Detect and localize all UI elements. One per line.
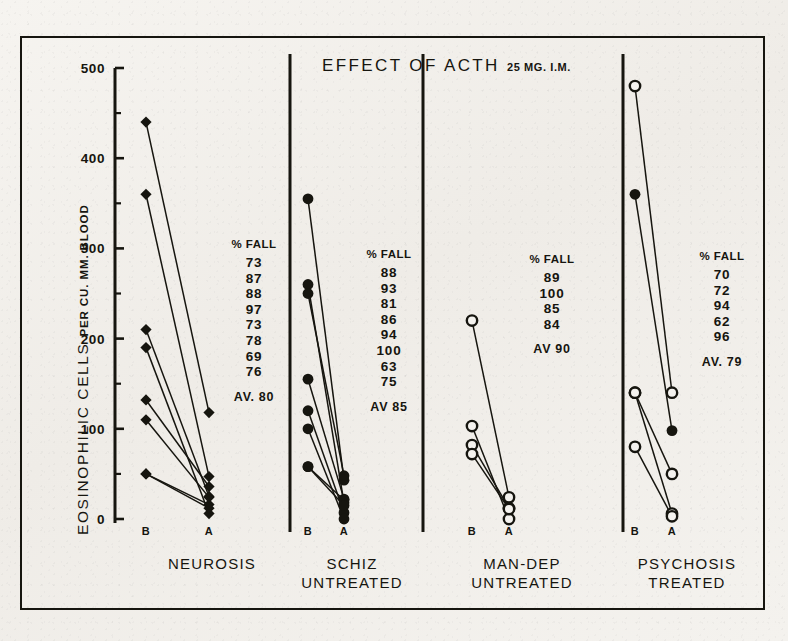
pair-line xyxy=(146,194,209,476)
pct-fall-value: 88 xyxy=(210,286,298,302)
pct-fall-value: 84 xyxy=(508,317,596,333)
x-axis-label-b-panel1: B xyxy=(142,525,150,537)
y-tick-label: 100 xyxy=(57,421,105,436)
pct-fall-header: % FALL xyxy=(678,250,766,262)
data-point-marker xyxy=(140,342,151,353)
pct-fall-block-4: % FALL7072946296AV. 79 xyxy=(678,250,766,369)
x-axis-label-b-panel2: B xyxy=(304,525,312,537)
data-point-marker xyxy=(303,423,314,434)
pct-fall-value: 62 xyxy=(678,314,766,330)
data-point-marker xyxy=(630,81,640,91)
panel-caption-line1: PSYCHOSIS xyxy=(638,554,736,573)
data-point-marker xyxy=(467,315,477,325)
data-point-marker xyxy=(339,514,350,525)
pct-fall-value: 86 xyxy=(345,312,433,328)
pct-fall-value: 87 xyxy=(210,271,298,287)
pct-fall-average: AV 85 xyxy=(345,400,433,414)
data-point-marker xyxy=(467,421,477,431)
pct-fall-value: 78 xyxy=(210,333,298,349)
x-axis-label-a-panel4: A xyxy=(668,525,676,537)
panel-caption-line1: NEUROSIS xyxy=(168,554,256,573)
pair-line xyxy=(146,122,209,412)
pct-fall-average: AV 90 xyxy=(508,342,596,356)
plot-area: EOSINOPHILIC CELLS PER CU. MM. BLOOD EFF… xyxy=(22,38,763,608)
data-point-marker xyxy=(140,189,151,200)
panel-series-2 xyxy=(303,193,350,524)
data-point-marker xyxy=(303,405,314,416)
data-point-marker xyxy=(303,374,314,385)
pct-fall-value: 94 xyxy=(678,298,766,314)
x-axis-label-a-panel2: A xyxy=(340,525,348,537)
pair-line xyxy=(635,393,672,474)
figure-frame: EOSINOPHILIC CELLS PER CU. MM. BLOOD EFF… xyxy=(20,36,765,610)
pair-line xyxy=(308,411,344,513)
panel-caption-3: MAN-DEPUNTREATED xyxy=(471,554,572,592)
panel-caption-line2: UNTREATED xyxy=(471,573,572,592)
pct-fall-value: 73 xyxy=(210,317,298,333)
pair-line xyxy=(635,86,672,393)
data-point-marker xyxy=(630,442,640,452)
pct-fall-value: 94 xyxy=(345,327,433,343)
data-point-marker xyxy=(667,388,677,398)
pct-fall-value: 76 xyxy=(210,364,298,380)
panel-caption-line2: TREATED xyxy=(638,573,736,592)
panel-caption-line1: SCHIZ xyxy=(301,554,402,573)
pct-fall-block-3: % FALL891008584AV 90 xyxy=(508,253,596,356)
y-tick-label: 300 xyxy=(57,241,105,256)
pct-fall-value: 100 xyxy=(508,286,596,302)
pair-line xyxy=(146,474,209,508)
data-point-marker xyxy=(667,511,677,521)
pct-fall-value: 70 xyxy=(678,267,766,283)
pct-fall-value: 69 xyxy=(210,349,298,365)
pair-line xyxy=(472,454,509,509)
panel-caption-line1: MAN-DEP xyxy=(471,554,572,573)
pct-fall-value: 96 xyxy=(678,329,766,345)
pct-fall-value: 100 xyxy=(345,343,433,359)
pair-line xyxy=(635,393,672,514)
pct-fall-value: 88 xyxy=(345,265,433,281)
panel-series-4 xyxy=(630,81,678,522)
data-point-marker xyxy=(303,288,314,299)
y-tick-label: 200 xyxy=(57,331,105,346)
panel-caption-1: NEUROSIS xyxy=(168,554,256,573)
pct-fall-header: % FALL xyxy=(508,253,596,265)
panel-caption-line2: UNTREATED xyxy=(301,573,402,592)
pct-fall-average: AV. 80 xyxy=(210,390,298,404)
pct-fall-value: 72 xyxy=(678,283,766,299)
data-point-marker xyxy=(203,407,214,418)
pair-line xyxy=(308,294,344,476)
data-point-marker xyxy=(140,324,151,335)
data-point-marker xyxy=(303,193,314,204)
y-tick-label: 400 xyxy=(57,151,105,166)
x-axis-label-b-panel3: B xyxy=(468,525,476,537)
data-point-marker xyxy=(630,189,641,200)
x-axis-label-b-panel4: B xyxy=(631,525,639,537)
pct-fall-value: 93 xyxy=(345,281,433,297)
pct-fall-value: 75 xyxy=(345,374,433,390)
pct-fall-block-2: % FALL88938186941006375AV 85 xyxy=(345,248,433,414)
data-point-marker xyxy=(140,468,151,479)
pct-fall-header: % FALL xyxy=(345,248,433,260)
data-point-marker xyxy=(504,492,514,502)
data-point-marker xyxy=(203,481,214,492)
panel-caption-4: PSYCHOSISTREATED xyxy=(638,554,736,592)
panel-series-1 xyxy=(140,117,214,520)
x-axis-label-a-panel1: A xyxy=(205,525,213,537)
data-point-marker xyxy=(303,461,314,472)
x-axis-label-a-panel3: A xyxy=(505,525,513,537)
pct-fall-value: 89 xyxy=(508,270,596,286)
pct-fall-header: % FALL xyxy=(210,238,298,250)
pct-fall-value: 97 xyxy=(210,302,298,318)
y-tick-label: 0 xyxy=(57,512,105,527)
pct-fall-average: AV. 79 xyxy=(678,355,766,369)
data-point-marker xyxy=(667,469,677,479)
data-point-marker xyxy=(140,394,151,405)
y-tick-label: 500 xyxy=(57,61,105,76)
pct-fall-block-1: % FALL7387889773786976AV. 80 xyxy=(210,238,298,404)
data-point-marker xyxy=(339,500,350,511)
pair-line xyxy=(635,447,672,516)
data-point-marker xyxy=(339,470,350,481)
data-point-marker xyxy=(667,425,678,436)
data-point-marker xyxy=(140,117,151,128)
pct-fall-value: 81 xyxy=(345,296,433,312)
